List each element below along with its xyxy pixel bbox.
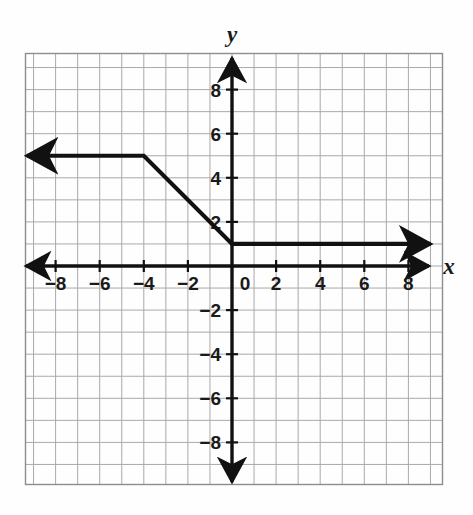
y-tick-label: −6 xyxy=(199,388,221,409)
y-axis-label: y xyxy=(224,22,238,47)
y-tick-label: −2 xyxy=(199,300,221,321)
x-tick-label: −2 xyxy=(177,273,199,294)
y-tick-label: 6 xyxy=(210,124,221,145)
y-tick-label: 4 xyxy=(210,168,221,189)
coordinate-plane-svg: −8−6−4−202468 8642−2−4−6−8 y x xyxy=(0,0,473,515)
y-tick-label: −8 xyxy=(199,432,221,453)
x-tick-label: −8 xyxy=(45,273,67,294)
x-tick-label: −6 xyxy=(89,273,111,294)
x-tick-label: 8 xyxy=(403,273,414,294)
x-tick-label: 2 xyxy=(271,273,282,294)
y-tick-label: 8 xyxy=(210,80,221,101)
x-tick-label: 6 xyxy=(359,273,370,294)
graph-figure: −8−6−4−202468 8642−2−4−6−8 y x xyxy=(0,0,473,515)
x-tick-label: −4 xyxy=(133,273,155,294)
x-tick-label: 0 xyxy=(240,273,251,294)
x-tick-label: 4 xyxy=(315,273,326,294)
x-axis-label: x xyxy=(442,254,455,279)
y-tick-label: −4 xyxy=(199,344,221,365)
